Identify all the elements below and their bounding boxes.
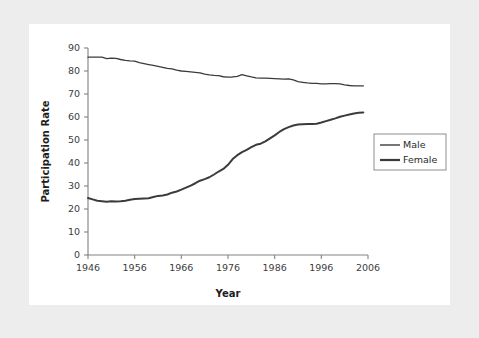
x-tick-label: 1946 [76,262,100,273]
participation-rate-line-chart: 0102030405060708090 19461956196619761986… [29,24,450,305]
x-tick-label: 2006 [356,262,380,273]
x-tick-label: 1956 [123,262,147,273]
y-tick-label: 30 [68,180,80,191]
series-line-male [88,57,363,86]
y-tick-label: 90 [68,42,80,53]
page-background: 0102030405060708090 19461956196619761986… [0,0,479,338]
x-axis-title: Year [215,288,241,299]
y-axis-title: Participation Rate [40,100,51,202]
x-tick-label: 1966 [169,262,193,273]
x-tick-label: 1986 [263,262,287,273]
y-axis-ticks: 0102030405060708090 [68,42,88,260]
legend-label-male: Male [403,139,426,150]
y-tick-label: 20 [68,203,80,214]
y-tick-label: 60 [68,111,80,122]
y-tick-label: 10 [68,226,80,237]
y-tick-label: 40 [68,157,80,168]
y-tick-label: 0 [74,249,80,260]
legend: MaleFemale [374,134,446,170]
axis-lines [88,48,368,255]
y-tick-label: 50 [68,134,80,145]
chart-card: 0102030405060708090 19461956196619761986… [29,24,450,305]
y-tick-label: 70 [68,88,80,99]
x-tick-label: 1976 [216,262,240,273]
chart-canvas: 0102030405060708090 19461956196619761986… [29,24,450,305]
x-tick-label: 1996 [309,262,333,273]
x-axis-ticks: 1946195619661976198619962006 [76,255,380,273]
series-line-female [88,112,363,201]
y-tick-label: 80 [68,65,80,76]
legend-label-female: Female [403,154,438,165]
